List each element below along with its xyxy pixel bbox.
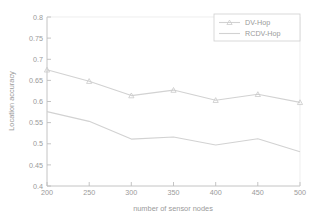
y-tick-label: 0.5 bbox=[33, 139, 43, 148]
y-tick-label: 0.55 bbox=[29, 118, 43, 127]
x-tick-label: 250 bbox=[83, 188, 95, 197]
y-tick-label: 0.75 bbox=[29, 34, 43, 43]
figure-container: 0.8 0.75 0.7 0.65 0.6 0.55 0.5 0.45 0.4 … bbox=[0, 0, 317, 223]
x-axis-title: number of sensor nodes bbox=[133, 204, 213, 213]
y-tick-label: 0.8 bbox=[33, 13, 43, 22]
x-tick-label: 450 bbox=[252, 188, 264, 197]
legend-label: RCDV-Hop bbox=[245, 29, 281, 38]
y-tick-label: 0.65 bbox=[29, 76, 43, 85]
line-chart: 0.8 0.75 0.7 0.65 0.6 0.55 0.5 0.45 0.4 … bbox=[0, 0, 317, 223]
x-tick-label: 400 bbox=[210, 188, 222, 197]
y-axis-title: Location accuracy bbox=[7, 71, 16, 131]
y-tick-label: 0.7 bbox=[33, 55, 43, 64]
x-tick-label: 300 bbox=[125, 188, 137, 197]
x-tick-label: 350 bbox=[168, 188, 180, 197]
x-tick-label: 500 bbox=[294, 188, 306, 197]
legend-label: DV-Hop bbox=[245, 18, 270, 27]
legend[interactable]: DV-Hop RCDV-Hop bbox=[214, 14, 300, 41]
x-tick-label: 200 bbox=[41, 188, 53, 197]
y-tick-label: 0.6 bbox=[33, 97, 43, 106]
y-tick-label: 0.45 bbox=[29, 161, 43, 170]
